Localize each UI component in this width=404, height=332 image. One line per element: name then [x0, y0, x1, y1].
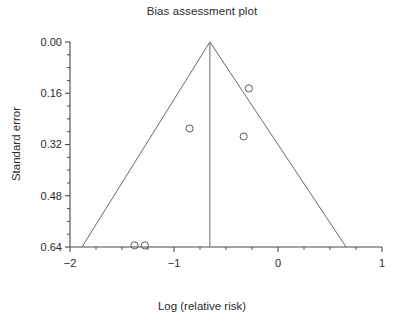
- axes-group: [70, 42, 382, 247]
- funnel-plot-canvas: [0, 0, 404, 332]
- y-ticks-group: [65, 42, 70, 247]
- data-point-0: [186, 125, 193, 132]
- data-point-2: [240, 133, 247, 140]
- bias-assessment-plot-figure: Bias assessment plot Standard error Log …: [0, 0, 404, 332]
- data-point-1: [245, 85, 252, 92]
- funnel-right-edge: [210, 42, 346, 247]
- funnel-left-edge: [82, 42, 210, 247]
- data-point-3: [131, 242, 138, 249]
- x-ticks-group: [70, 247, 382, 252]
- data-points-group: [131, 85, 253, 249]
- data-point-4: [141, 242, 148, 249]
- funnel-confidence-region: [82, 42, 346, 247]
